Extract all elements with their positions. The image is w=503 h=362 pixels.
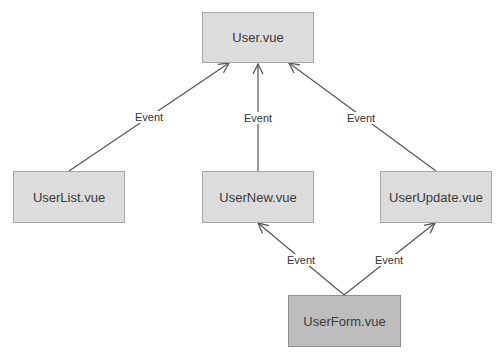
- node-usernew: UserNew.vue: [202, 171, 314, 223]
- edge-label-userform-userupdate: Event: [374, 254, 404, 266]
- node-label: UserList.vue: [33, 190, 105, 205]
- edge-label-userform-usernew: Event: [286, 254, 316, 266]
- node-label: UserForm.vue: [303, 314, 385, 329]
- node-label: UserNew.vue: [219, 190, 296, 205]
- node-userlist: UserList.vue: [13, 171, 125, 223]
- node-userupdate: UserUpdate.vue: [380, 171, 492, 223]
- node-label: UserUpdate.vue: [389, 190, 483, 205]
- node-userform: UserForm.vue: [288, 295, 401, 347]
- edge-label-userlist-user: Event: [134, 111, 164, 123]
- node-label: User.vue: [232, 30, 283, 45]
- edge-label-usernew-user: Event: [243, 112, 273, 124]
- edge-label-userupdate-user: Event: [346, 112, 376, 124]
- node-user: User.vue: [202, 12, 314, 63]
